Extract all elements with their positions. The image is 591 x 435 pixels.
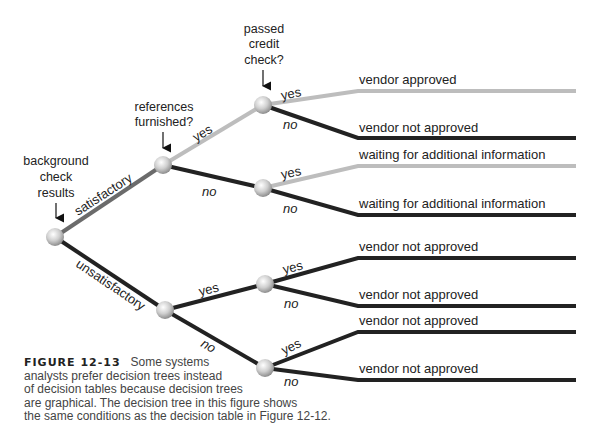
svg-text:references: references <box>134 100 193 114</box>
leaf-edge-5 <box>265 258 576 284</box>
caption-line: analysts prefer decision trees instead <box>24 370 324 384</box>
node-background-check <box>46 228 64 246</box>
outcome-label: vendor not approved <box>359 239 478 254</box>
svg-text:check: check <box>40 170 73 184</box>
edge-unsatisfactory <box>55 237 165 310</box>
node-references <box>154 156 172 174</box>
leaf-edge-3 <box>263 166 576 188</box>
caption-line: are graphical. The decision tree in this… <box>24 397 324 411</box>
outcome-label: waiting for additional information <box>358 147 545 162</box>
svg-text:credit: credit <box>249 37 280 51</box>
svg-text:check?: check? <box>244 53 284 67</box>
caption-line: of decision tables because decision tree… <box>24 383 324 397</box>
edge-label-no: no <box>202 184 216 199</box>
node-credit-check <box>254 96 272 114</box>
edge-label-no: no <box>284 296 298 311</box>
outcome-label: vendor approved <box>359 72 457 87</box>
condition-references: references furnished? <box>134 100 193 129</box>
svg-text:furnished?: furnished? <box>135 115 193 129</box>
edge-label-no: no <box>283 117 297 132</box>
svg-text:passed: passed <box>244 22 284 36</box>
edge-label-satisfactory: satisfactory <box>71 170 135 219</box>
outcome-label: vendor not approved <box>359 120 478 135</box>
node-sat-no <box>254 179 272 197</box>
outcome-label: vendor not approved <box>359 287 478 302</box>
edge-label-yes: yes <box>190 121 215 145</box>
figure-caption: FIGURE 12-13Some systems analysts prefer… <box>24 356 324 424</box>
edge-label-no: no <box>283 201 297 216</box>
caption-line: FIGURE 12-13Some systems <box>24 356 324 370</box>
outcome-label: vendor not approved <box>359 361 478 376</box>
condition-credit-check: passed credit check? <box>244 22 284 67</box>
svg-text:background: background <box>23 154 88 168</box>
svg-text:results: results <box>38 186 75 200</box>
caption-line: the same conditions as the decision tabl… <box>24 410 324 424</box>
edge-label-unsatisfactory: unsatisfactory <box>73 256 148 314</box>
leaf-edge-1 <box>263 91 576 105</box>
outcome-label: waiting for additional information <box>358 196 545 211</box>
node-unsat <box>156 301 174 319</box>
outcome-label: vendor not approved <box>359 313 478 328</box>
node-unsat-yes <box>256 275 274 293</box>
condition-background-check: background check results <box>23 154 88 200</box>
figure-label: FIGURE 12-13 <box>24 356 121 369</box>
